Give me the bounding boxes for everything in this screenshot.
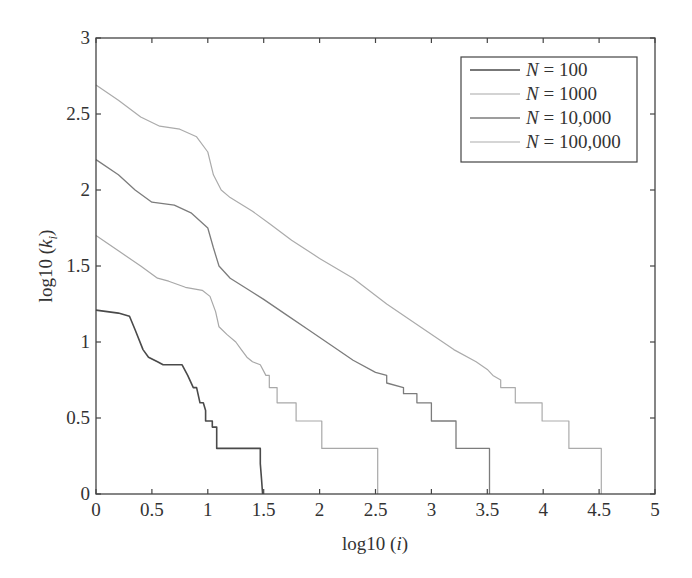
x-tick-label: 1	[203, 499, 213, 520]
y-tick-label: 0	[81, 483, 91, 504]
series-line-1	[96, 236, 378, 494]
x-tick-label: 1.5	[252, 499, 276, 520]
x-tick-label: 2	[315, 499, 325, 520]
x-tick-label: 0.5	[140, 499, 164, 520]
x-axis-label: log10 (i)	[342, 533, 408, 555]
x-tick-label: 2.5	[364, 499, 388, 520]
x-tick-label: 0	[91, 499, 101, 520]
y-tick-label: 0.5	[66, 407, 90, 428]
chart: 00.511.522.533.544.5500.511.522.53 log10…	[0, 0, 692, 578]
legend-label: N = 100,000	[525, 131, 621, 152]
legend-label: N = 1000	[525, 83, 597, 104]
x-tick-label: 4	[538, 499, 548, 520]
x-tick-label: 3.5	[475, 499, 499, 520]
y-tick-label: 2	[81, 179, 91, 200]
series-line-0	[96, 310, 263, 494]
x-tick-label: 4.5	[587, 499, 611, 520]
x-tick-label: 3	[427, 499, 437, 520]
x-tick-label: 5	[650, 499, 660, 520]
y-tick-label: 3	[81, 27, 91, 48]
legend-label: N = 10,000	[525, 107, 611, 128]
y-tick-label: 1	[81, 331, 91, 352]
y-axis-label: log10 (ki)	[35, 230, 60, 303]
legend-label: N = 100	[525, 59, 587, 80]
legend: N = 100N = 1000N = 10,000N = 100,000	[461, 57, 637, 162]
series-line-2	[96, 160, 490, 494]
y-tick-label: 1.5	[66, 255, 90, 276]
y-tick-label: 2.5	[66, 103, 90, 124]
